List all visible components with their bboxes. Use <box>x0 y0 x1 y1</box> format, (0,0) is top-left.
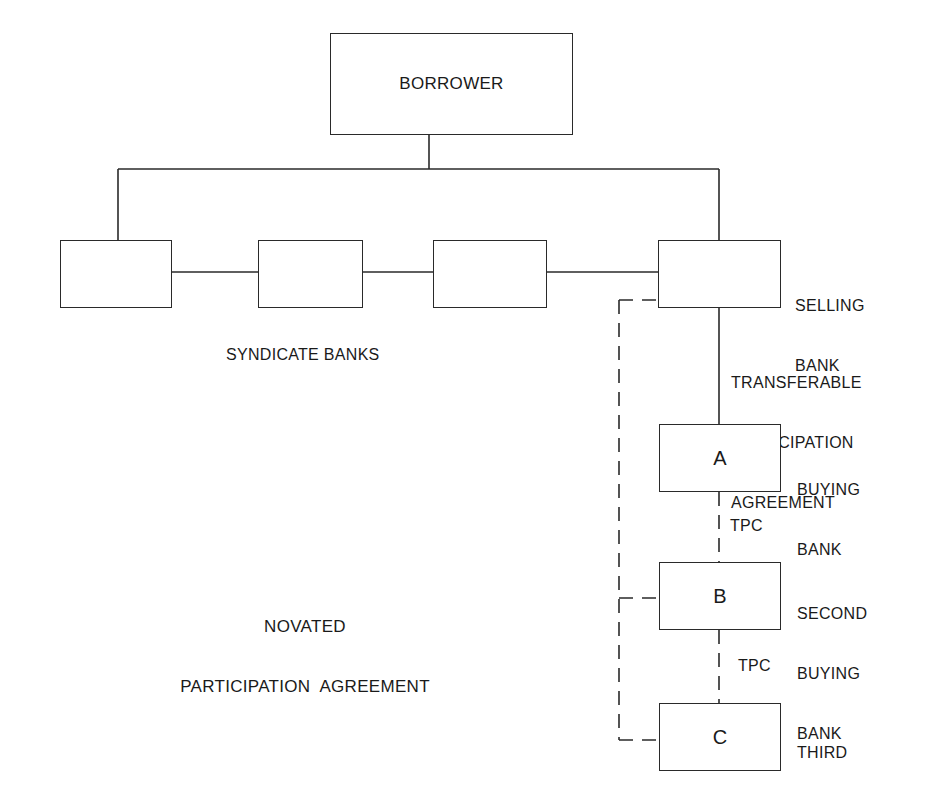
tpc-label-2: TPC <box>738 656 771 676</box>
syndicate-banks-caption: SYNDICATE BANKS <box>226 345 380 365</box>
third-buying-bank-label: THIRD BUYING BANK <box>797 703 860 803</box>
buying-bank-a-letter: A <box>713 447 726 470</box>
tpc-label-1: TPC <box>730 516 763 536</box>
buying-bank-c-box: C <box>659 703 781 771</box>
syndicate-bank-box-2 <box>258 240 363 308</box>
buying-bank-a-box: A <box>659 424 781 492</box>
buying-bank-b-letter: B <box>713 585 726 608</box>
selling-bank-box <box>658 240 781 308</box>
buying-bank-b-box: B <box>659 562 781 630</box>
buying-bank-c-letter: C <box>713 726 727 749</box>
syndicate-bank-box-3 <box>433 240 547 308</box>
borrower-box: BORROWER <box>330 33 573 135</box>
buying-bank-label: BUYING BANK <box>797 440 860 580</box>
syndicate-bank-box-1 <box>60 240 172 308</box>
novated-participation-agreement-label: NOVATED PARTICIPATION AGREEMENT <box>180 577 430 717</box>
borrower-label: BORROWER <box>399 74 503 94</box>
